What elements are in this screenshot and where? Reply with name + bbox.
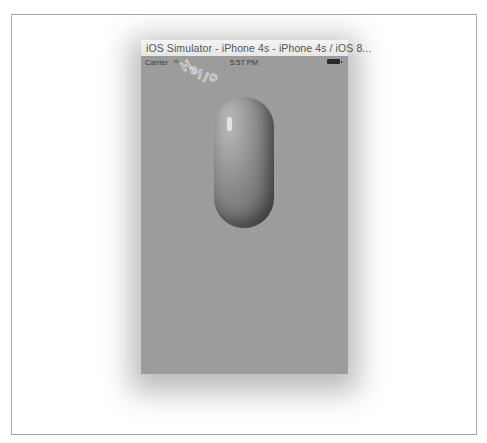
battery-icon (327, 59, 340, 64)
capsule-view[interactable] (214, 97, 274, 228)
curved-text: H e l l o (181, 58, 226, 86)
simulator-titlebar[interactable]: iOS Simulator - iPhone 4s - iPhone 4s / … (141, 40, 348, 56)
device-screen[interactable]: Carrier ≈ 5:57 PM H e l l o (141, 56, 348, 374)
clock-time: 5:57 PM (230, 58, 258, 67)
carrier-label: Carrier (145, 58, 168, 67)
capsule-highlight (227, 117, 232, 131)
status-bar: Carrier ≈ 5:57 PM (141, 56, 348, 68)
window-title: iOS Simulator - iPhone 4s - iPhone 4s / … (146, 42, 371, 54)
